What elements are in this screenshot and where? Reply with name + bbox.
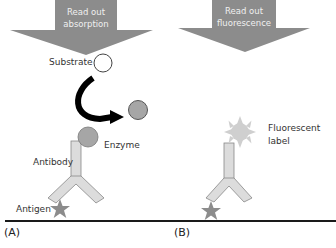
reaction-arrow [78,78,112,119]
panel-label-a: (A) [4,226,20,239]
readout-line-1: Read out [208,5,280,17]
readout-text-b: Read out fluorescence [208,5,280,29]
panel-label-b: (B) [174,226,190,239]
substrate-circle [94,54,112,72]
readout-line-2: fluorescence [208,17,280,29]
antigen-label: Antigen [16,204,51,214]
enzyme-label: Enzyme [104,140,140,150]
enzyme-circle [78,127,98,147]
readout-line-1: Read out [55,6,117,18]
fluor-line-1: Fluorescent [268,122,320,135]
antibody-label: Antibody [33,157,73,167]
antibody-a [48,141,104,203]
fluorescent-label-icon [224,116,256,148]
readout-text-a: Read out absorption [55,6,117,30]
antigen-star-a [50,199,70,218]
readout-line-2: absorption [55,18,117,30]
reaction-arrow-head [110,110,124,124]
product-circle [129,101,148,120]
fluorescent-label-text: Fluorescent label [268,122,320,148]
fluor-line-2: label [268,135,320,148]
antibody-b [206,143,252,202]
substrate-label: Substrate [49,57,93,67]
antigen-star-b [201,201,221,220]
